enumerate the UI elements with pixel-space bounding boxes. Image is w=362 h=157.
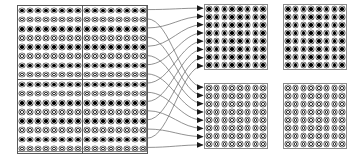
hollow-dot-icon (60, 73, 63, 76)
matrix-cell (323, 53, 331, 61)
hollow-dot-icon (325, 134, 328, 137)
hollow-dot-icon (117, 128, 120, 131)
hollow-dot-icon (68, 18, 71, 21)
hollow-dot-icon (254, 102, 257, 105)
matrix-cell (66, 43, 74, 52)
matrix-cell (91, 135, 99, 144)
matrix-cell (50, 70, 58, 79)
filled-dot-icon (52, 64, 55, 67)
dest-block-top-left[interactable] (204, 4, 268, 70)
matrix-cell (66, 24, 74, 33)
hollow-dot-icon (294, 86, 297, 89)
hollow-dot-icon (238, 110, 241, 113)
matrix-cell (107, 24, 115, 33)
matrix-cell (42, 52, 50, 61)
matrix-cell (139, 6, 147, 15)
hollow-dot-icon (207, 118, 210, 121)
matrix-cell (26, 98, 34, 107)
matrix-cell (221, 124, 229, 132)
matrix-cell (139, 24, 147, 33)
matrix-cell (315, 13, 323, 21)
hollow-dot-icon (36, 147, 39, 150)
matrix-cell (91, 98, 99, 107)
hollow-dot-icon (294, 94, 297, 97)
hollow-dot-icon (85, 73, 88, 76)
matrix-cell (300, 61, 308, 69)
matrix-cell (205, 29, 213, 37)
matrix-cell (205, 5, 213, 13)
filled-dot-icon (317, 47, 320, 50)
hollow-dot-icon (44, 128, 47, 131)
filled-dot-icon (302, 23, 305, 26)
filled-dot-icon (207, 7, 210, 10)
source-quadrant-bottom-left[interactable] (17, 79, 83, 154)
hollow-dot-icon (215, 86, 218, 89)
matrix-cell (26, 117, 34, 126)
matrix-cell (213, 100, 221, 108)
matrix-cell (315, 108, 323, 116)
matrix-cell (259, 140, 267, 148)
matrix-cell (284, 45, 292, 53)
hollow-dot-icon (20, 18, 23, 21)
filled-dot-icon (207, 23, 210, 26)
filled-dot-icon (261, 23, 264, 26)
source-matrix[interactable] (17, 5, 147, 152)
filled-dot-icon (36, 27, 39, 30)
filled-dot-icon (101, 27, 104, 30)
dest-block-bottom-left[interactable] (204, 83, 268, 149)
hollow-dot-icon (125, 110, 128, 113)
filled-dot-icon (317, 55, 320, 58)
matrix-cell (107, 6, 115, 15)
source-quadrant-top-left[interactable] (17, 5, 83, 80)
hollow-dot-icon (230, 94, 233, 97)
matrix-cell (338, 21, 346, 29)
matrix-cell (34, 98, 42, 107)
source-quadrant-bottom-right[interactable] (82, 79, 148, 154)
filled-dot-icon (246, 39, 249, 42)
matrix-cell (91, 61, 99, 70)
filled-dot-icon (93, 83, 96, 86)
hollow-dot-icon (85, 36, 88, 39)
matrix-cell (315, 92, 323, 100)
filled-dot-icon (109, 27, 112, 30)
matrix-cell (307, 84, 315, 92)
matrix-cell (244, 5, 252, 13)
dest-block-bottom-right[interactable] (283, 83, 347, 149)
filled-dot-icon (246, 47, 249, 50)
hollow-dot-icon (261, 142, 264, 145)
matrix-cell (50, 117, 58, 126)
dest-block-top-right[interactable] (283, 4, 347, 70)
matrix-cell (58, 61, 66, 70)
matrix-cell (236, 84, 244, 92)
matrix-cell (323, 21, 331, 29)
hollow-dot-icon (109, 110, 112, 113)
connector-arrow (147, 25, 203, 47)
matrix-cell (307, 100, 315, 108)
matrix-cell (236, 13, 244, 21)
matrix-cell (83, 98, 91, 107)
hollow-dot-icon (141, 36, 144, 39)
matrix-cell (91, 80, 99, 89)
hollow-dot-icon (333, 134, 336, 137)
hollow-dot-icon (68, 110, 71, 113)
matrix-cell (331, 108, 339, 116)
matrix-cell (259, 61, 267, 69)
matrix-cell (205, 61, 213, 69)
matrix-cell (123, 24, 131, 33)
hollow-dot-icon (20, 54, 23, 57)
matrix-cell (228, 92, 236, 100)
hollow-dot-icon (261, 110, 264, 113)
hollow-dot-icon (254, 110, 257, 113)
matrix-cell (259, 53, 267, 61)
filled-dot-icon (44, 45, 47, 48)
source-quadrant-top-right[interactable] (82, 5, 148, 80)
filled-dot-icon (325, 23, 328, 26)
matrix-cell (315, 37, 323, 45)
matrix-cell (236, 116, 244, 124)
hollow-dot-icon (325, 102, 328, 105)
hollow-dot-icon (238, 94, 241, 97)
matrix-cell (26, 144, 34, 153)
filled-dot-icon (117, 138, 120, 141)
filled-dot-icon (68, 9, 71, 12)
hollow-dot-icon (93, 36, 96, 39)
